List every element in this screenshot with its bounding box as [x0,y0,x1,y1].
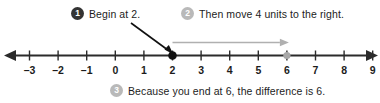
axis-tick-label: –2 [52,64,64,76]
point-start-2 [168,51,177,60]
number-line-figure: 1 Begin at 2. 2 Then move 4 units to the… [0,0,380,103]
axis-line-group [4,50,378,61]
axis-tick-label: 0 [112,64,118,76]
axis-tick-label: –1 [81,64,93,76]
callout-pointer-line [131,23,169,51]
jump-arrow [173,39,289,46]
axis-tick-label: 6 [284,64,290,76]
axis-tick-label: 9 [370,64,376,76]
point-end-6 [283,52,290,59]
axis-tick-label: 5 [255,64,261,76]
axis-tick-label: 8 [341,64,347,76]
callout-pointer-1 [131,23,174,55]
axis-tick-label: 4 [227,64,233,76]
axis-tick-label: 3 [198,64,204,76]
axis-tick-label: –3 [24,64,36,76]
axis-tick-label: 7 [313,64,319,76]
axis-tick-label: 1 [141,64,147,76]
number-line: –3–2–10123456789 [0,0,380,103]
axis-tick-label: 2 [170,64,176,76]
axis-tick-labels: –3–2–10123456789 [24,64,376,76]
jump-arrowhead-icon [280,39,289,46]
axis-arrow-left-icon [4,50,16,61]
